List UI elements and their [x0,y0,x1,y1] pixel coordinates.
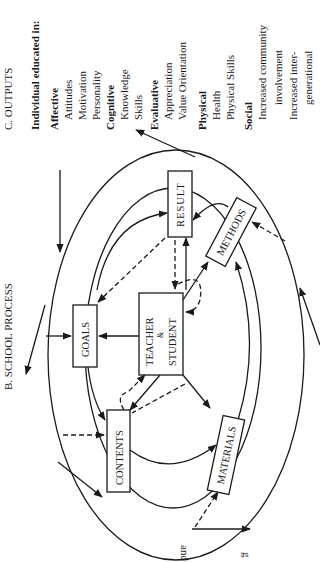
node-methods: METHODS [206,198,256,267]
item-knowledge: Knowledge [118,69,130,120]
outputs-heading: Individual educated in: [29,21,41,130]
item-physical-skills: Physical Skills [224,55,236,120]
arrow-teacher-to-contents [130,375,160,410]
item-community: Increased community [256,25,268,120]
output-arrow-top [136,130,195,157]
item-appreciation: Appreciation [162,62,174,120]
dash-outer-to-methods [252,222,285,241]
arc-goals-to-contents [88,367,105,420]
group-affective: Affective [48,88,60,130]
item-skills: Skills [132,95,144,120]
item-intergenerational-1: Increased inter- [287,51,299,120]
item-health: Health [210,90,222,120]
node-student-label: STUDENT [167,318,178,366]
node-teacher-label: TEACHER [144,318,155,366]
item-motivation: Motivation [76,71,88,120]
school-process-title: B. SCHOOL PROCESS [2,283,14,390]
inputs-fragment-3: g [241,552,253,558]
item-involvement: involvement [272,50,284,105]
dash-outer-to-materials [195,492,218,527]
arc-materials-to-methods [236,262,250,420]
arc-methods-to-result [193,204,228,220]
node-ampersand-label: & [156,331,165,338]
node-contents-label: CONTENTS [114,430,125,485]
group-physical: Physical [196,91,208,130]
outputs-section: C. OUTPUTS Individual educated in: Affec… [2,21,314,130]
node-goals: GOALS [73,305,97,367]
inputs-fragment-2: and [179,545,191,561]
outputs-title: C. OUTPUTS [2,68,14,130]
item-value-orientation: Value Orientation [176,42,188,120]
arc-contents-to-materials [130,445,216,464]
node-result-label: RESULT [175,182,186,227]
arc-inner-to-result [97,213,167,290]
item-attitudes: Attitudes [62,80,74,120]
item-intergenerational-2: generational [302,51,314,105]
group-social: Social [242,102,254,130]
school-process-diagram: C. OUTPUTS Individual educated in: Affec… [0,0,320,562]
node-contents: CONTENTS [107,410,130,492]
item-personality: Personality [90,70,102,120]
group-cognitive: Cognitive [104,85,116,130]
group-evaluative: Evaluative [148,80,160,130]
arrow-teacher-to-materials [183,375,210,408]
node-goals-label: GOALS [80,322,91,357]
node-teacher-student: TEACHER & STUDENT [139,293,183,375]
output-arrow-left [26,305,45,374]
dash-contents-to-teacher [120,375,145,410]
node-result: RESULT [168,171,192,237]
